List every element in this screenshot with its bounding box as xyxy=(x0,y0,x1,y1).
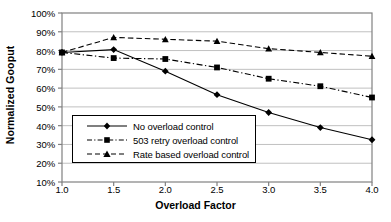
chart-container: Normalized Gooput 100%90%80%70%60%50%40%… xyxy=(0,0,391,222)
data-point-marker xyxy=(266,76,272,82)
data-point-marker xyxy=(162,68,169,75)
x-axis-tick-labels: 1.01.52.02.53.03.54.0 xyxy=(0,184,391,200)
legend: No overload control 503 retry overload c… xyxy=(72,115,256,163)
legend-sample-solid-diamond-icon xyxy=(84,119,130,133)
data-point-marker xyxy=(214,91,221,98)
legend-label: 503 retry overload control xyxy=(130,135,238,146)
x-axis-title: Overload Factor xyxy=(0,199,391,211)
legend-item-rate-based-overload-control: Rate based overload control xyxy=(73,147,255,161)
x-axis-tick-label: 3.0 xyxy=(262,184,275,195)
data-point-marker xyxy=(214,65,220,71)
legend-item-no-overload-control: No overload control xyxy=(73,119,255,133)
x-axis-tick-label: 4.0 xyxy=(366,184,379,195)
data-point-marker xyxy=(110,46,117,53)
x-axis-tick-label: 1.5 xyxy=(107,184,120,195)
legend-sample-dashed-triangle-icon xyxy=(84,147,130,161)
data-point-marker xyxy=(111,55,117,61)
series-line xyxy=(62,52,372,97)
data-point-marker xyxy=(317,124,324,131)
legend-label: Rate based overload control xyxy=(130,149,249,160)
x-axis-tick-label: 2.0 xyxy=(159,184,172,195)
data-point-marker xyxy=(162,56,168,62)
data-point-marker xyxy=(369,95,375,101)
data-point-marker xyxy=(265,109,272,116)
legend-item-503-retry-overload-control: 503 retry overload control xyxy=(73,133,255,147)
legend-sample-dashdot-square-icon xyxy=(84,133,130,147)
x-axis-tick-label: 1.0 xyxy=(56,184,69,195)
data-point-marker xyxy=(369,136,376,143)
data-point-marker xyxy=(317,83,323,89)
x-axis-tick-label: 3.5 xyxy=(314,184,327,195)
legend-label: No overload control xyxy=(130,121,213,132)
x-axis-tick-label: 2.5 xyxy=(211,184,224,195)
